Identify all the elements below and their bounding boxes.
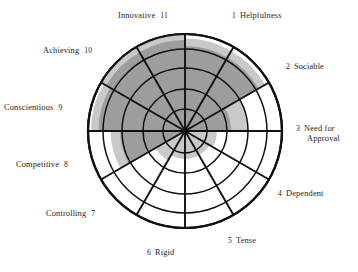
axis-label-helpfulness: 1Helpfulness: [232, 11, 282, 20]
axis-label-controlling: Controlling7: [46, 209, 95, 218]
circumplex-svg: 1Helpfulness 2Sociable 3Need for Approva…: [0, 0, 358, 272]
axis-label-sociable: 2Sociable: [286, 62, 324, 71]
axis-label-rigid: 6Rigid: [147, 248, 175, 257]
axis-label-dependent: 4Dependent: [278, 189, 324, 198]
axis-label-competitive: Competitive8: [16, 160, 68, 169]
axis-label-conscientious: Conscientious9: [4, 103, 62, 112]
axis-label-tense: 5Tense: [228, 236, 256, 245]
axis-label-need-for-approval: 3Need for: [296, 124, 335, 133]
axis-label-achieving: Achieving10: [43, 46, 92, 55]
axis-label-innovative: Innovative11: [118, 11, 168, 20]
center-point: [183, 129, 187, 133]
circumplex-chart: 1Helpfulness 2Sociable 3Need for Approva…: [0, 0, 358, 272]
axis-label-need-for-approval-line2: Approval: [307, 134, 340, 143]
